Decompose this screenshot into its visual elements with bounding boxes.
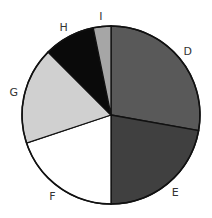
slice-label-h: H [60,21,68,34]
pie-slices [22,26,200,204]
slice-label-i: I [99,10,102,23]
slice-label-d: D [183,45,191,58]
slice-label-e: E [172,186,179,199]
pie-slice-e [111,115,199,204]
pie-slice-d [111,26,200,131]
pie-chart: DEFGHI [0,0,212,218]
slice-label-f: F [49,190,55,203]
slice-label-g: G [9,86,18,99]
